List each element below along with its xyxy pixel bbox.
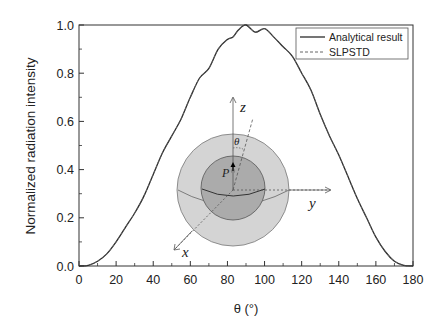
x-tick-label: 40 bbox=[146, 273, 160, 287]
p-label: P bbox=[221, 166, 230, 180]
x-label: x bbox=[181, 244, 189, 260]
x-tick-label: 160 bbox=[365, 273, 386, 287]
y-tick-label: 0.6 bbox=[57, 115, 74, 129]
y-tick-label: 0.2 bbox=[57, 211, 74, 225]
chart: z y x P θ 0204060801001201401601800.00.2… bbox=[0, 0, 440, 332]
x-tick-label: 20 bbox=[109, 273, 123, 287]
legend-label-analytical: Analytical result bbox=[329, 31, 403, 43]
x-tick-label: 60 bbox=[183, 273, 197, 287]
theta-label: θ bbox=[234, 135, 240, 147]
x-tick-label: 140 bbox=[328, 273, 349, 287]
x-tick-label: 0 bbox=[76, 273, 83, 287]
z-label: z bbox=[239, 99, 246, 115]
y-tick-label: 0.4 bbox=[57, 163, 74, 177]
x-tick-label: 120 bbox=[291, 273, 312, 287]
x-tick-label: 100 bbox=[254, 273, 275, 287]
y-tick-label: 0.8 bbox=[57, 67, 74, 81]
x-axis-label: θ (°) bbox=[234, 301, 259, 316]
x-tick-label: 180 bbox=[403, 273, 424, 287]
legend: Analytical result SLPSTD bbox=[296, 28, 408, 59]
y-tick-label: 0.0 bbox=[57, 260, 74, 274]
y-label: y bbox=[307, 195, 316, 211]
y-tick-label: 1.0 bbox=[57, 19, 74, 33]
x-tick-label: 80 bbox=[220, 273, 234, 287]
y-axis-label: Normalized radiation intensity bbox=[23, 57, 38, 234]
legend-label-slpstd: SLPSTD bbox=[329, 46, 370, 58]
inset-diagram: z y x P θ bbox=[174, 97, 331, 260]
